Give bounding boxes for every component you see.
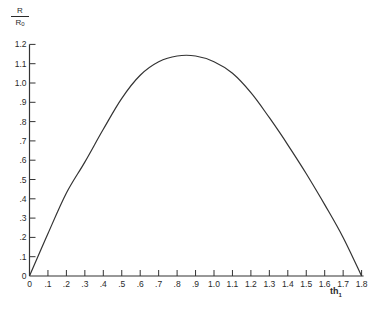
y-tick-label: 1.1 <box>15 59 27 69</box>
y-tick-label: .5 <box>19 175 26 185</box>
axes <box>30 44 364 276</box>
line-plot: 0.1.2.3.4.5.6.7.8.91.01.11.21.31.41.51.6… <box>0 0 383 312</box>
y-tick-label: .7 <box>19 136 26 146</box>
x-tick-label: .4 <box>100 279 107 289</box>
y-tick-label: .3 <box>19 213 26 223</box>
y-label-den-sub: 0 <box>21 21 24 27</box>
x-tick-label: .1 <box>44 279 51 289</box>
y-tick-label: 1.2 <box>15 39 27 49</box>
x-tick-label: 1.5 <box>300 279 312 289</box>
x-tick-label: 1.4 <box>282 279 294 289</box>
x-label-main: th <box>330 286 339 296</box>
y-label-numerator: R <box>11 7 29 17</box>
y-tick-label: 1.0 <box>15 78 27 88</box>
x-tick-label: 0 <box>27 279 32 289</box>
y-label-denominator: R0 <box>11 17 29 28</box>
y-tick-label: .9 <box>19 97 26 107</box>
data-curve <box>30 55 362 276</box>
x-axis-label: th1 <box>330 286 342 298</box>
y-axis-label: R R0 <box>11 7 29 28</box>
x-axis-ticks: 0.1.2.3.4.5.6.7.8.91.01.11.21.31.41.51.6… <box>27 270 368 289</box>
y-tick-label: .4 <box>19 194 26 204</box>
y-tick-label: .8 <box>19 117 26 127</box>
y-axis-ticks: 0.1.2.3.4.5.6.7.8.91.01.11.2 <box>15 39 36 281</box>
x-tick-label: 1.1 <box>227 279 239 289</box>
x-label-sub: 1 <box>339 292 342 298</box>
y-tick-label: 0 <box>22 271 27 281</box>
x-tick-label: .5 <box>118 279 125 289</box>
x-tick-label: 1.8 <box>356 279 368 289</box>
x-tick-label: .7 <box>155 279 162 289</box>
x-tick-label: 1.3 <box>263 279 275 289</box>
y-tick-label: .2 <box>19 232 26 242</box>
x-tick-label: 1.0 <box>208 279 220 289</box>
chart-area: 0.1.2.3.4.5.6.7.8.91.01.11.21.31.41.51.6… <box>0 0 383 312</box>
x-tick-label: .2 <box>63 279 70 289</box>
x-tick-label: .9 <box>192 279 199 289</box>
x-tick-label: .8 <box>174 279 181 289</box>
y-tick-label: .1 <box>19 252 26 262</box>
x-tick-label: .3 <box>81 279 88 289</box>
x-tick-label: 1.2 <box>245 279 257 289</box>
x-tick-label: .6 <box>137 279 144 289</box>
y-tick-label: .6 <box>19 155 26 165</box>
